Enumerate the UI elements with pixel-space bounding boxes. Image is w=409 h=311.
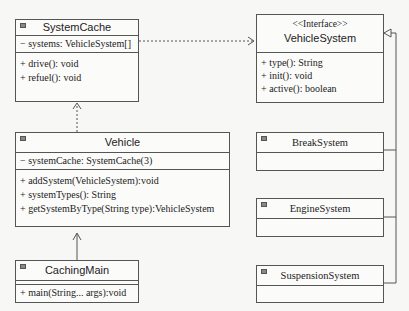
method: + getSystemByType(String type):VehicleSy… <box>20 202 225 216</box>
class-header: EngineSystem <box>257 199 383 219</box>
method: + drive(): void <box>20 57 134 71</box>
class-header: SuspensionSystem <box>257 266 383 286</box>
method: + refuel(): void <box>20 71 134 85</box>
interface-vehicle-system[interactable]: <<Interface>> VehicleSystem + type(): St… <box>256 14 384 103</box>
class-name: CachingMain <box>45 264 109 276</box>
class-header: <<Interface>> VehicleSystem <box>257 15 383 53</box>
class-suspension-system[interactable]: SuspensionSystem <box>256 265 384 303</box>
attributes-section: − systems: VehicleSystem[] <box>16 36 138 53</box>
class-name: SuspensionSystem <box>281 270 360 281</box>
method: + active(): boolean <box>261 82 379 95</box>
method: + addSystem(VehicleSystem):void <box>20 174 225 188</box>
class-caching-main[interactable]: CachingMain + main(String... args):void <box>15 260 139 303</box>
class-header: Vehicle <box>16 133 229 153</box>
methods-section: + type(): String + init(): void + active… <box>257 53 383 96</box>
methods-section: + main(String... args):void <box>16 285 138 301</box>
methods-section: + addSystem(VehicleSystem):void + system… <box>16 170 229 217</box>
methods-section: + drive(): void + refuel(): void <box>16 53 138 86</box>
class-name: EngineSystem <box>290 203 351 214</box>
class-name: VehicleSystem <box>257 30 383 46</box>
stereotype: <<Interface>> <box>257 19 383 30</box>
class-name: BreakSystem <box>292 137 348 148</box>
collapse-icon[interactable] <box>261 202 267 207</box>
class-system-cache[interactable]: SystemCache − systems: VehicleSystem[] +… <box>15 19 139 102</box>
collapse-icon[interactable] <box>20 136 26 141</box>
class-break-system[interactable]: BreakSystem <box>256 132 384 171</box>
collapse-icon[interactable] <box>20 23 26 28</box>
method: + main(String... args):void <box>20 286 134 300</box>
attribute: − systems: VehicleSystem[] <box>20 37 134 51</box>
attributes-section: − systemCache: SystemCache(3) <box>16 153 229 170</box>
class-header: BreakSystem <box>257 133 383 153</box>
attribute: − systemCache: SystemCache(3) <box>20 154 225 168</box>
method: + init(): void <box>261 69 379 82</box>
class-header: SystemCache <box>16 20 138 36</box>
collapse-icon[interactable] <box>261 136 267 141</box>
method: + type(): String <box>261 56 379 69</box>
method: + systemTypes(): String <box>20 188 225 202</box>
class-name: SystemCache <box>43 21 111 33</box>
collapse-icon[interactable] <box>20 264 26 269</box>
class-header: CachingMain <box>16 261 138 281</box>
collapse-icon[interactable] <box>261 269 267 274</box>
class-name: Vehicle <box>105 136 140 148</box>
class-engine-system[interactable]: EngineSystem <box>256 198 384 237</box>
class-vehicle[interactable]: Vehicle − systemCache: SystemCache(3) + … <box>15 132 230 227</box>
